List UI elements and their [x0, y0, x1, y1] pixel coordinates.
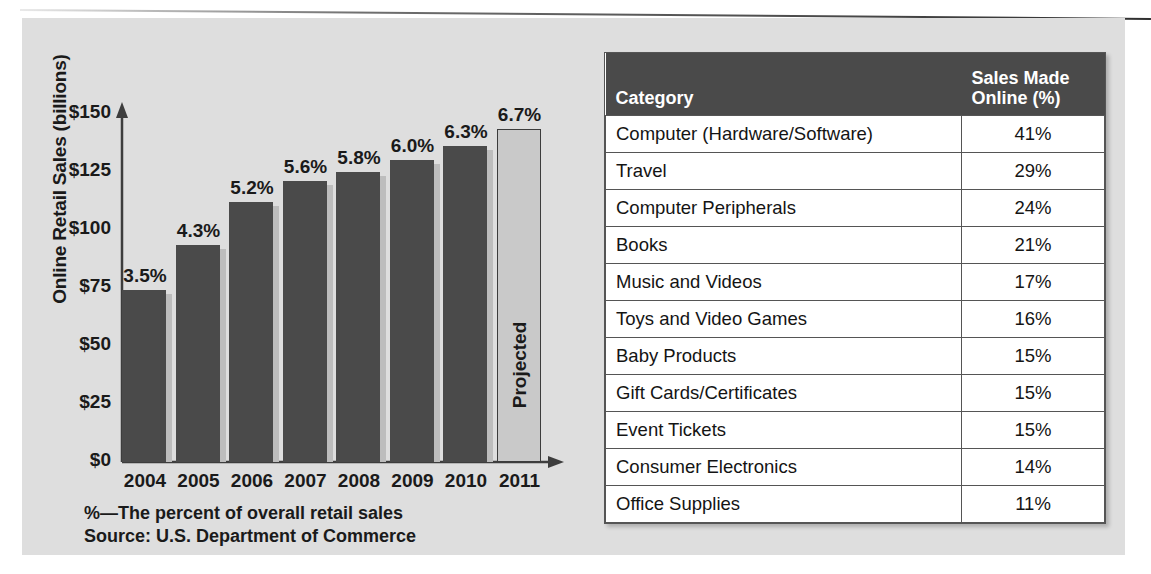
bar-slot-2008: 5.8% — [336, 108, 380, 462]
table-row[interactable]: Music and Videos17% — [606, 264, 1105, 301]
x-tick-2009: 2009 — [385, 470, 441, 492]
projected-annotation: Projected — [509, 310, 531, 420]
table-row[interactable]: Baby Products15% — [606, 338, 1105, 375]
bar-shadow-2005 — [220, 249, 226, 462]
bar-2008[interactable] — [336, 172, 380, 462]
bar-value-label-2009: 6.0% — [385, 135, 441, 157]
cell-category: Travel — [606, 153, 962, 190]
bar-2004[interactable] — [122, 290, 166, 462]
sales-online-table: Category Sales Made Online (%) Computer … — [604, 52, 1106, 524]
y-tick-2: $100 — [47, 217, 111, 239]
cell-percent: 16% — [962, 301, 1105, 338]
y-tick-0: $150 — [47, 101, 111, 123]
chart-footnotes: %—The percent of overall retail sales So… — [84, 502, 544, 549]
y-tick-5: $25 — [47, 391, 111, 413]
bar-slot-2010: 6.3% — [443, 108, 487, 462]
y-axis-tick-labels: $150$125$100$75$50$25$0 — [47, 18, 111, 488]
bar-slot-2004: 3.5% — [122, 108, 166, 462]
column-header-category: Category — [606, 53, 962, 116]
cell-percent: 41% — [962, 116, 1105, 153]
cell-category: Music and Videos — [606, 264, 962, 301]
bar-shadow-2010 — [487, 150, 493, 462]
x-tick-2004: 2004 — [117, 470, 173, 492]
cell-category: Computer (Hardware/Software) — [606, 116, 962, 153]
bar-2005[interactable] — [176, 245, 220, 462]
figure-panel: Online Retail Sales (billions) $150$125$… — [22, 18, 1125, 555]
cell-percent: 21% — [962, 227, 1105, 264]
table-row[interactable]: Office Supplies11% — [606, 486, 1105, 523]
cell-category: Toys and Video Games — [606, 301, 962, 338]
cell-percent: 11% — [962, 486, 1105, 523]
x-tick-2005: 2005 — [171, 470, 227, 492]
bar-value-label-2004: 3.5% — [117, 265, 173, 287]
bar-shadow-2007 — [327, 185, 333, 462]
cell-percent: 15% — [962, 375, 1105, 412]
bar-value-label-2007: 5.6% — [278, 156, 334, 178]
cell-category: Consumer Electronics — [606, 449, 962, 486]
cell-category: Office Supplies — [606, 486, 962, 523]
bar-value-label-2011: 6.7% — [492, 104, 548, 126]
cell-percent: 14% — [962, 449, 1105, 486]
bar-value-label-2008: 5.8% — [331, 147, 387, 169]
table-header-row: Category Sales Made Online (%) — [606, 53, 1105, 116]
bar-slot-2005: 4.3% — [176, 108, 220, 462]
bar-2006[interactable] — [229, 202, 273, 462]
bar-2007[interactable] — [283, 181, 327, 462]
cell-category: Books — [606, 227, 962, 264]
x-tick-2011: 2011 — [492, 470, 548, 492]
x-tick-2008: 2008 — [331, 470, 387, 492]
bar-slot-2007: 5.6% — [283, 108, 327, 462]
y-tick-1: $125 — [47, 159, 111, 181]
bar-shadow-2006 — [273, 206, 279, 462]
footnote-percent: %—The percent of overall retail sales — [84, 502, 544, 525]
bar-slot-2006: 5.2% — [229, 108, 273, 462]
cell-category: Baby Products — [606, 338, 962, 375]
bar-value-label-2010: 6.3% — [438, 121, 494, 143]
table-row[interactable]: Travel29% — [606, 153, 1105, 190]
bar-value-label-2006: 5.2% — [224, 177, 280, 199]
bar-shadow-2008 — [380, 176, 386, 462]
table-row[interactable]: Computer Peripherals24% — [606, 190, 1105, 227]
cell-category: Gift Cards/Certificates — [606, 375, 962, 412]
table-body: Computer (Hardware/Software)41%Travel29%… — [606, 116, 1105, 523]
bar-shadow-2004 — [166, 294, 172, 462]
table-row[interactable]: Computer (Hardware/Software)41% — [606, 116, 1105, 153]
bar-2009[interactable] — [390, 160, 434, 462]
footnote-source: Source: U.S. Department of Commerce — [84, 525, 544, 548]
chart-plot-area: 3.5%4.3%5.2%5.6%5.8%6.0%6.3%6.7%Projecte… — [122, 108, 552, 462]
cell-category: Event Tickets — [606, 412, 962, 449]
bar-value-label-2005: 4.3% — [171, 220, 227, 242]
x-axis-tick-labels: 20042005200620072008200920102011 — [122, 470, 562, 496]
y-tick-6: $0 — [47, 449, 111, 471]
bar-slot-2011: 6.7%Projected — [497, 108, 541, 462]
y-tick-4: $50 — [47, 333, 111, 355]
bar-shadow-2009 — [434, 164, 440, 462]
x-tick-2007: 2007 — [278, 470, 334, 492]
cell-percent: 15% — [962, 338, 1105, 375]
cell-percent: 24% — [962, 190, 1105, 227]
cell-percent: 17% — [962, 264, 1105, 301]
table-row[interactable]: Event Tickets15% — [606, 412, 1105, 449]
bar-2010[interactable] — [443, 146, 487, 462]
column-header-line1: Sales Made — [972, 68, 1070, 88]
cell-percent: 15% — [962, 412, 1105, 449]
cell-category: Computer Peripherals — [606, 190, 962, 227]
bar-slot-2009: 6.0% — [390, 108, 434, 462]
table-row[interactable]: Consumer Electronics14% — [606, 449, 1105, 486]
table-row[interactable]: Gift Cards/Certificates15% — [606, 375, 1105, 412]
column-header-sales-online: Sales Made Online (%) — [962, 53, 1105, 116]
x-tick-2010: 2010 — [438, 470, 494, 492]
table-row[interactable]: Books21% — [606, 227, 1105, 264]
bar-chart: Online Retail Sales (billions) $150$125$… — [22, 18, 582, 555]
cell-percent: 29% — [962, 153, 1105, 190]
column-header-line2: Online (%) — [972, 88, 1061, 108]
x-tick-2006: 2006 — [224, 470, 280, 492]
y-tick-3: $75 — [47, 275, 111, 297]
table-row[interactable]: Toys and Video Games16% — [606, 301, 1105, 338]
